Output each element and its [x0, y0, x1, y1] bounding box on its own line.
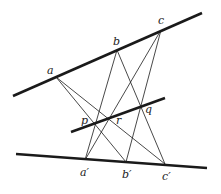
label-b: b	[113, 35, 120, 48]
pappus-diagram: abcprqa′b′c′	[0, 0, 221, 194]
bottom-line	[16, 154, 207, 168]
label-b-prime: b′	[122, 168, 132, 181]
label-p: p	[81, 114, 88, 127]
thick-lines-group	[13, 13, 207, 168]
label-a: a	[47, 64, 54, 77]
segment-c-a_prime	[85, 30, 161, 160]
segment-a-c_prime	[56, 77, 165, 164]
label-r: r	[116, 114, 122, 127]
label-a-prime: a′	[80, 166, 90, 179]
diagram-canvas: abcprqa′b′c′	[0, 0, 221, 194]
label-c: c	[158, 14, 164, 27]
label-q: q	[145, 103, 152, 116]
segment-b-a_prime	[85, 50, 117, 160]
thin-lines-group	[56, 30, 165, 164]
label-c-prime: c′	[162, 170, 171, 183]
